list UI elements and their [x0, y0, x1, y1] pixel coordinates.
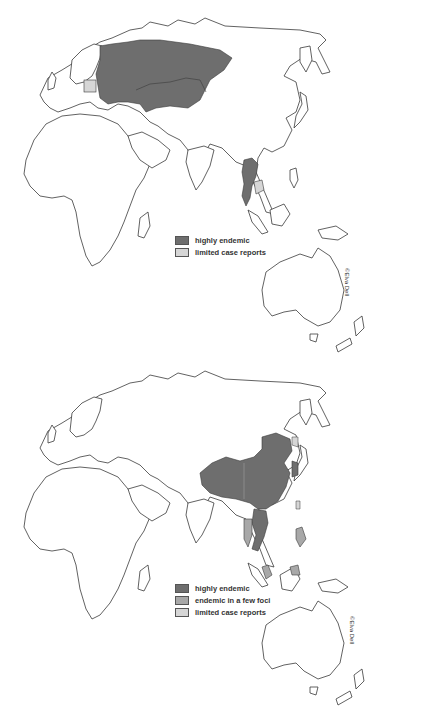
- legend-swatch-endemic-few-foci: [175, 596, 189, 605]
- map-top-svg: [0, 0, 425, 353]
- credit-label-bottom: ©Elva Dell: [349, 616, 355, 644]
- india: [186, 146, 214, 190]
- australia: [262, 248, 344, 326]
- region-primorye-limited: [292, 437, 298, 447]
- legend-label: endemic in a few foci: [195, 596, 270, 605]
- region-korea-highly-endemic: [292, 461, 298, 477]
- map-bottom: highly endemic endemic in a few foci lim…: [0, 353, 425, 706]
- new-zealand: [336, 316, 364, 352]
- new-zealand: [336, 669, 364, 705]
- legend-label: limited case reports: [195, 608, 266, 617]
- madagascar: [138, 212, 150, 238]
- region-thailand-few-foci: [244, 519, 252, 547]
- legend-item-highly-endemic: highly endemic: [175, 235, 266, 246]
- map-bottom-svg: [0, 353, 425, 706]
- legend-top: highly endemic limited case reports: [175, 235, 266, 259]
- legend-swatch-limited-case-reports: [175, 608, 189, 617]
- kamchatka: [300, 399, 312, 425]
- madagascar: [138, 565, 150, 591]
- kamchatka: [300, 46, 312, 72]
- region-poland-limited: [84, 80, 96, 92]
- legend-item-endemic-few-foci: endemic in a few foci: [175, 595, 270, 606]
- borneo: [270, 204, 290, 226]
- region-sabah-few-foci: [290, 565, 300, 575]
- legend-label: highly endemic: [195, 236, 250, 245]
- philippines: [290, 168, 298, 188]
- legend-swatch-highly-endemic: [175, 584, 189, 593]
- legend-swatch-highly-endemic: [175, 236, 189, 245]
- india: [186, 499, 214, 543]
- region-malaysia-few-foci: [262, 565, 272, 579]
- region-vietnam-highly-endemic: [252, 509, 268, 551]
- new-guinea: [318, 579, 348, 593]
- legend-item-highly-endemic: highly endemic: [175, 583, 270, 594]
- sumatra: [248, 210, 268, 234]
- legend-label: limited case reports: [195, 248, 266, 257]
- region-taiwan-limited: [296, 501, 300, 509]
- legend-bottom: highly endemic endemic in a few foci lim…: [175, 583, 270, 619]
- legend-swatch-limited-case-reports: [175, 248, 189, 257]
- legend-item-limited-case-reports: limited case reports: [175, 607, 270, 618]
- region-philippines-few-foci: [296, 527, 306, 547]
- legend-label: highly endemic: [195, 584, 250, 593]
- legend-item-limited-case-reports: limited case reports: [175, 247, 266, 258]
- australia: [262, 601, 344, 679]
- new-guinea: [318, 226, 348, 240]
- tasmania: [310, 334, 318, 342]
- tasmania: [310, 687, 318, 695]
- credit-label-top: ©Elva Dell: [344, 268, 350, 296]
- map-top: highly endemic limited case reports ©Elv…: [0, 0, 425, 353]
